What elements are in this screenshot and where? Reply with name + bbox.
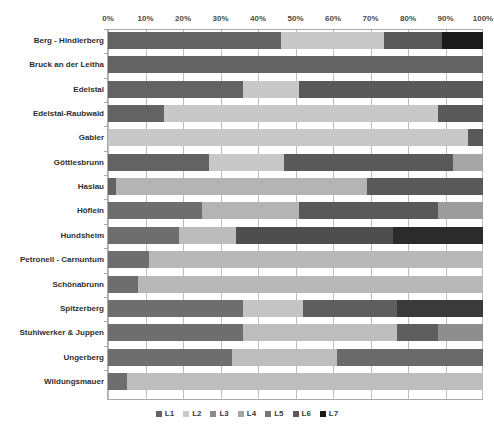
bar-segment[interactable]: [438, 202, 483, 219]
legend-item-l6[interactable]: L6: [293, 409, 311, 418]
bar-segment[interactable]: [108, 324, 243, 341]
bar-segment[interactable]: [232, 349, 337, 366]
bar-segment[interactable]: [468, 129, 483, 146]
bar-segment[interactable]: [116, 178, 367, 195]
legend-swatch-icon: [265, 411, 271, 417]
bar-segment[interactable]: [164, 105, 438, 122]
y-axis-category-label: Göttlesbrunn: [0, 154, 104, 171]
bar-segment[interactable]: [108, 81, 243, 98]
bar-segment[interactable]: [108, 349, 232, 366]
bar-segment[interactable]: [243, 81, 299, 98]
y-axis-category-label: Berg - Hindlerberg: [0, 32, 104, 49]
y-axis-tick: [104, 175, 108, 176]
bar-row[interactable]: [108, 373, 483, 390]
bar-segment[interactable]: [367, 178, 483, 195]
y-axis-tick: [104, 53, 108, 54]
bar-segment[interactable]: [337, 349, 483, 366]
bar-segment[interactable]: [108, 251, 149, 268]
bar-segment[interactable]: [108, 129, 468, 146]
y-axis-category-label: Höflein: [0, 202, 104, 219]
x-tick-label: 80%: [400, 14, 416, 23]
bar-segment[interactable]: [108, 276, 138, 293]
legend-label: L4: [247, 409, 256, 418]
y-axis-tick: [104, 126, 108, 127]
chart-title: [0, 0, 494, 2]
y-axis-category-label: Spitzerberg: [0, 300, 104, 317]
bar-row[interactable]: [108, 276, 483, 293]
bar-segment[interactable]: [108, 300, 243, 317]
x-tick-label: 20%: [175, 14, 191, 23]
y-axis-category-label: Petronell - Carnuntum: [0, 251, 104, 268]
bar-segment[interactable]: [202, 202, 300, 219]
bar-segment[interactable]: [397, 324, 438, 341]
bar-segment[interactable]: [438, 324, 483, 341]
legend-item-l7[interactable]: L7: [320, 409, 338, 418]
legend-item-l4[interactable]: L4: [238, 409, 256, 418]
bar-row[interactable]: [108, 202, 483, 219]
bar-segment[interactable]: [108, 373, 127, 390]
bar-row[interactable]: [108, 178, 483, 195]
bar-segment[interactable]: [281, 32, 384, 49]
bar-row[interactable]: [108, 56, 483, 73]
bar-row[interactable]: [108, 105, 483, 122]
legend-item-l2[interactable]: L2: [183, 409, 201, 418]
bar-segment[interactable]: [453, 154, 483, 171]
bar-segment[interactable]: [138, 276, 483, 293]
bar-segment[interactable]: [108, 32, 281, 49]
legend-item-l1[interactable]: L1: [156, 409, 174, 418]
bar-segment[interactable]: [108, 178, 116, 195]
bar-row[interactable]: [108, 300, 483, 317]
legend-swatch-icon: [320, 411, 326, 417]
bar-segment[interactable]: [149, 251, 483, 268]
bar-segment[interactable]: [179, 227, 235, 244]
bar-segment[interactable]: [209, 154, 284, 171]
y-axis-tick: [104, 224, 108, 225]
bar-segment[interactable]: [236, 227, 394, 244]
bar-segment[interactable]: [299, 81, 483, 98]
bar-segment[interactable]: [108, 56, 483, 73]
y-axis-tick: [104, 321, 108, 322]
bar-segment[interactable]: [284, 154, 453, 171]
x-tick-label: 40%: [250, 14, 266, 23]
bar-segment[interactable]: [442, 32, 483, 49]
y-axis-category-label: Bruck an der Leitha: [0, 56, 104, 73]
y-axis-tick: [104, 78, 108, 79]
bar-segment[interactable]: [108, 202, 202, 219]
stacked-bar-chart: 0%10%20%30%40%50%60%70%80%90%100% Berg -…: [0, 0, 494, 431]
bar-segment[interactable]: [108, 154, 209, 171]
bar-segment[interactable]: [393, 227, 483, 244]
y-axis-tick: [104, 199, 108, 200]
y-axis-category-label: Hundsheim: [0, 227, 104, 244]
bar-segment[interactable]: [303, 300, 397, 317]
legend-label: L1: [165, 409, 174, 418]
bar-row[interactable]: [108, 324, 483, 341]
x-tick-label: 100%: [473, 14, 493, 23]
bar-row[interactable]: [108, 251, 483, 268]
legend-item-l5[interactable]: L5: [265, 409, 283, 418]
y-axis-tick: [104, 248, 108, 249]
bar-segment[interactable]: [108, 105, 164, 122]
bar-row[interactable]: [108, 349, 483, 366]
bar-row[interactable]: [108, 32, 483, 49]
bar-segment[interactable]: [384, 32, 442, 49]
x-tick-label: 30%: [212, 14, 228, 23]
bar-row[interactable]: [108, 227, 483, 244]
bar-segment[interactable]: [299, 202, 438, 219]
bar-row[interactable]: [108, 81, 483, 98]
bar-row[interactable]: [108, 129, 483, 146]
x-tick-label: 60%: [325, 14, 341, 23]
legend-swatch-icon: [183, 411, 189, 417]
bar-segment[interactable]: [243, 324, 397, 341]
legend-label: L6: [302, 409, 311, 418]
bar-segment[interactable]: [108, 227, 179, 244]
bar-segment[interactable]: [127, 373, 483, 390]
bar-segment[interactable]: [243, 300, 303, 317]
x-tick-label: 70%: [362, 14, 378, 23]
y-axis-tick: [104, 29, 108, 30]
bar-row[interactable]: [108, 154, 483, 171]
y-axis-category-label: Ungerberg: [0, 349, 104, 366]
legend-item-l3[interactable]: L3: [210, 409, 228, 418]
bar-segment[interactable]: [397, 300, 483, 317]
bar-segment[interactable]: [438, 105, 483, 122]
legend-label: L3: [219, 409, 228, 418]
